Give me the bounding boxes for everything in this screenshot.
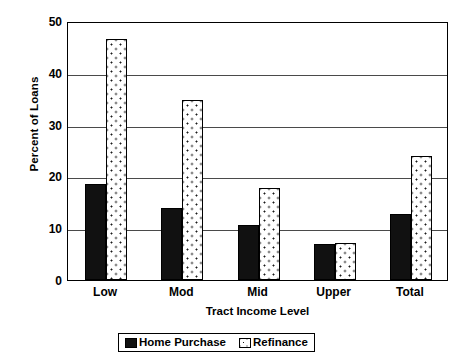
plot-area <box>67 22 448 281</box>
y-tick-label: 10 <box>36 223 62 235</box>
x-tick-label: Mod <box>141 286 221 299</box>
legend-label: Home Purchase <box>139 337 226 349</box>
chart-legend: Home PurchaseRefinance <box>118 333 315 352</box>
legend-swatch-icon <box>125 338 137 348</box>
x-axis-tick-labels: LowModMidUpperTotal <box>67 286 448 304</box>
y-axis-tick-labels: 01020304050 <box>32 0 62 357</box>
bar-total-refinance <box>411 156 432 280</box>
legend-swatch-icon <box>239 338 251 348</box>
y-tick-label: 0 <box>36 275 62 287</box>
legend-entry-home-purchase: Home Purchase <box>125 337 226 349</box>
x-axis-title: Tract Income Level <box>67 305 448 317</box>
legend-entry-refinance: Refinance <box>239 337 308 349</box>
x-tick-label: Low <box>65 286 145 299</box>
y-tick-label: 30 <box>36 120 62 132</box>
x-tick-label: Upper <box>294 286 374 299</box>
bars-layer <box>68 23 447 280</box>
x-tick-label: Total <box>370 286 450 299</box>
y-tick-label: 20 <box>36 171 62 183</box>
y-tick-label: 50 <box>36 16 62 28</box>
bar-group-total <box>68 23 449 280</box>
y-tick-label: 40 <box>36 68 62 80</box>
bar-chart: Percent of Loans 01020304050 LowModMidUp… <box>0 0 464 357</box>
legend-label: Refinance <box>253 337 308 349</box>
bar-total-home-purchase <box>390 214 411 280</box>
x-tick-label: Mid <box>218 286 298 299</box>
